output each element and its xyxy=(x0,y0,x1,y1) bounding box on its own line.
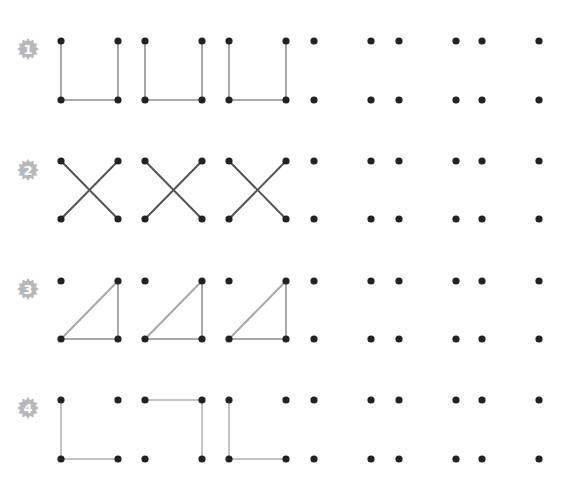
dot-tl[interactable] xyxy=(395,396,402,403)
dot-bl[interactable] xyxy=(57,335,64,342)
dot-br[interactable] xyxy=(198,215,205,222)
dot-tr[interactable] xyxy=(367,277,374,284)
dot-tl[interactable] xyxy=(141,396,148,403)
dot-bl[interactable] xyxy=(57,455,64,462)
dot-tr[interactable] xyxy=(535,37,542,44)
dot-bl[interactable] xyxy=(310,455,317,462)
dot-br[interactable] xyxy=(452,96,459,103)
dot-br[interactable] xyxy=(198,455,205,462)
dot-bl[interactable] xyxy=(57,96,64,103)
dot-bl[interactable] xyxy=(141,96,148,103)
dot-br[interactable] xyxy=(114,215,121,222)
dot-tr[interactable] xyxy=(535,277,542,284)
practice-figure[interactable] xyxy=(478,277,542,342)
dot-tr[interactable] xyxy=(198,277,205,284)
dot-bl[interactable] xyxy=(478,335,485,342)
dot-tl[interactable] xyxy=(225,157,232,164)
dot-br[interactable] xyxy=(452,335,459,342)
practice-figure[interactable] xyxy=(310,37,374,103)
practice-figure[interactable] xyxy=(395,157,459,222)
dot-tr[interactable] xyxy=(452,37,459,44)
dot-tl[interactable] xyxy=(225,396,232,403)
dot-tl[interactable] xyxy=(310,37,317,44)
dot-bl[interactable] xyxy=(478,455,485,462)
dot-bl[interactable] xyxy=(395,96,402,103)
dot-bl[interactable] xyxy=(310,215,317,222)
dot-tl[interactable] xyxy=(57,277,64,284)
dot-bl[interactable] xyxy=(395,455,402,462)
dot-br[interactable] xyxy=(114,335,121,342)
dot-br[interactable] xyxy=(198,96,205,103)
dot-tr[interactable] xyxy=(535,157,542,164)
practice-figure[interactable] xyxy=(310,396,374,462)
dot-bl[interactable] xyxy=(310,96,317,103)
dot-br[interactable] xyxy=(367,96,374,103)
dot-tl[interactable] xyxy=(141,157,148,164)
dot-br[interactable] xyxy=(114,96,121,103)
dot-br[interactable] xyxy=(535,455,542,462)
dot-tl[interactable] xyxy=(310,396,317,403)
dot-tl[interactable] xyxy=(478,37,485,44)
dot-br[interactable] xyxy=(535,335,542,342)
dot-tl[interactable] xyxy=(57,396,64,403)
dot-tl[interactable] xyxy=(141,37,148,44)
dot-tl[interactable] xyxy=(395,37,402,44)
dot-br[interactable] xyxy=(535,215,542,222)
dot-tr[interactable] xyxy=(282,157,289,164)
dot-bl[interactable] xyxy=(478,215,485,222)
dot-bl[interactable] xyxy=(310,335,317,342)
practice-figure[interactable] xyxy=(395,277,459,342)
dot-tl[interactable] xyxy=(225,37,232,44)
dot-tl[interactable] xyxy=(478,396,485,403)
dot-tl[interactable] xyxy=(478,157,485,164)
dot-tr[interactable] xyxy=(282,277,289,284)
dot-br[interactable] xyxy=(452,455,459,462)
dot-tr[interactable] xyxy=(198,396,205,403)
dot-tl[interactable] xyxy=(141,277,148,284)
dot-bl[interactable] xyxy=(141,455,148,462)
dot-br[interactable] xyxy=(367,455,374,462)
dot-bl[interactable] xyxy=(395,215,402,222)
practice-figure[interactable] xyxy=(310,157,374,222)
dot-br[interactable] xyxy=(282,96,289,103)
dot-bl[interactable] xyxy=(225,335,232,342)
dot-bl[interactable] xyxy=(478,96,485,103)
practice-figure[interactable] xyxy=(478,37,542,103)
dot-br[interactable] xyxy=(282,455,289,462)
dot-tr[interactable] xyxy=(535,396,542,403)
practice-figure[interactable] xyxy=(310,277,374,342)
dot-bl[interactable] xyxy=(225,455,232,462)
dot-tr[interactable] xyxy=(198,37,205,44)
dot-br[interactable] xyxy=(114,455,121,462)
dot-tl[interactable] xyxy=(310,277,317,284)
practice-figure[interactable] xyxy=(478,157,542,222)
dot-tr[interactable] xyxy=(198,157,205,164)
practice-figure[interactable] xyxy=(395,37,459,103)
dot-bl[interactable] xyxy=(57,215,64,222)
dot-br[interactable] xyxy=(452,215,459,222)
dot-bl[interactable] xyxy=(395,335,402,342)
dot-br[interactable] xyxy=(535,96,542,103)
dot-br[interactable] xyxy=(367,335,374,342)
dot-tr[interactable] xyxy=(282,396,289,403)
dot-tr[interactable] xyxy=(367,396,374,403)
dot-tl[interactable] xyxy=(395,157,402,164)
dot-tr[interactable] xyxy=(452,157,459,164)
dot-bl[interactable] xyxy=(141,335,148,342)
dot-br[interactable] xyxy=(282,335,289,342)
dot-tr[interactable] xyxy=(114,277,121,284)
practice-figure[interactable] xyxy=(395,396,459,462)
dot-tr[interactable] xyxy=(367,157,374,164)
dot-br[interactable] xyxy=(282,215,289,222)
dot-tr[interactable] xyxy=(282,37,289,44)
dot-br[interactable] xyxy=(367,215,374,222)
dot-tl[interactable] xyxy=(57,157,64,164)
dot-tl[interactable] xyxy=(395,277,402,284)
practice-figure[interactable] xyxy=(478,396,542,462)
dot-tr[interactable] xyxy=(114,157,121,164)
dot-bl[interactable] xyxy=(225,96,232,103)
dot-tl[interactable] xyxy=(310,157,317,164)
dot-tr[interactable] xyxy=(114,37,121,44)
dot-tl[interactable] xyxy=(225,277,232,284)
dot-tl[interactable] xyxy=(57,37,64,44)
